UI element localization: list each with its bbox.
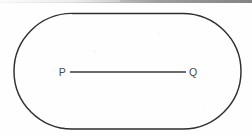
label-point-p: P: [59, 66, 66, 78]
diagram-canvas: P Q: [0, 0, 252, 136]
label-point-q: Q: [189, 66, 197, 78]
stadium-outline: [14, 13, 241, 129]
geometry-figure: P Q: [0, 0, 252, 136]
